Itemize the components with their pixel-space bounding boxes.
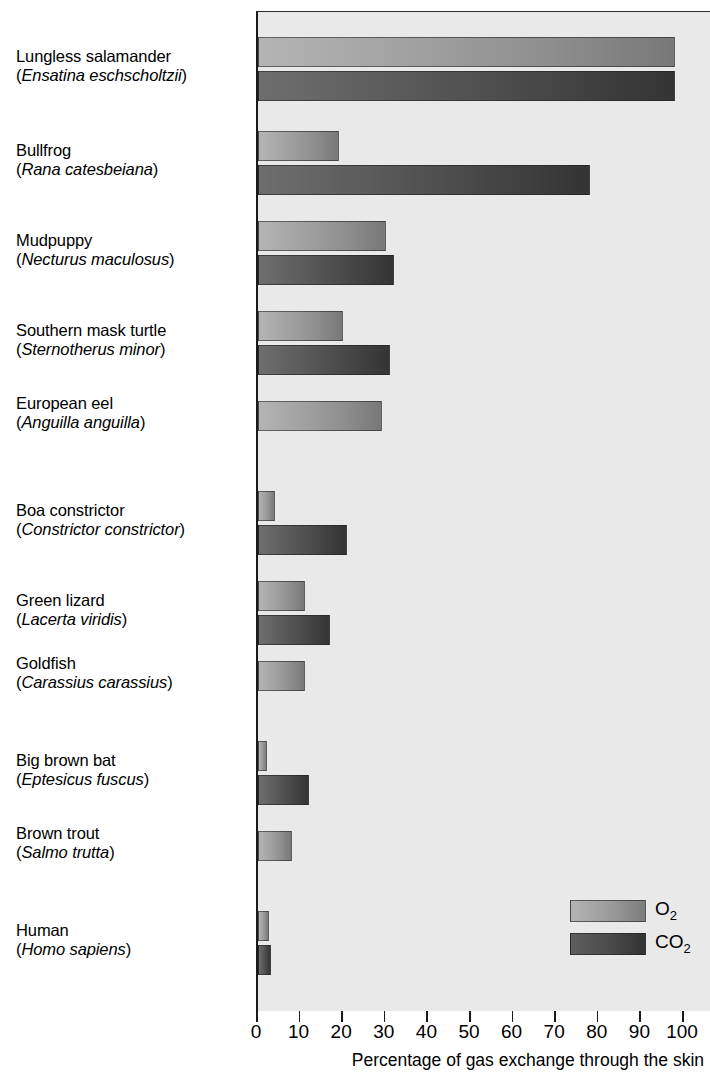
species-common-name-3: Southern mask turtle	[16, 321, 252, 340]
bar-o2-1	[258, 131, 339, 161]
x-tick-label-50: 50	[458, 1021, 479, 1043]
legend-label-co2-text: CO	[655, 931, 684, 952]
species-common-name-9: Brown trout	[16, 824, 252, 843]
legend-label-co2: CO2	[655, 931, 691, 956]
bar-co2-0	[258, 71, 675, 101]
legend-swatch-o2	[570, 900, 646, 922]
species-common-name-8: Big brown bat	[16, 751, 252, 770]
species-common-name-7: Goldfish	[16, 654, 252, 673]
chart-legend: O2 CO2	[570, 896, 702, 962]
x-tick-label-30: 30	[373, 1021, 394, 1043]
bar-o2-8	[258, 741, 267, 771]
legend-label-o2-subscript: 2	[670, 908, 677, 923]
species-label-6: Green lizard(Lacerta viridis)	[16, 591, 252, 630]
bar-co2-2	[258, 255, 394, 285]
bar-o2-10	[258, 911, 269, 941]
species-latin-name-9: (Salmo trutta)	[16, 843, 252, 862]
species-label-3: Southern mask turtle(Sternotherus minor)	[16, 321, 252, 360]
species-label-0: Lungless salamander(Ensatina eschscholtz…	[16, 47, 252, 86]
legend-swatch-co2	[570, 933, 646, 955]
x-tick-label-20: 20	[331, 1021, 352, 1043]
x-tick-label-60: 60	[501, 1021, 522, 1043]
species-common-name-6: Green lizard	[16, 591, 252, 610]
bar-co2-6	[258, 615, 330, 645]
bar-o2-3	[258, 311, 343, 341]
species-common-name-10: Human	[16, 921, 252, 940]
bar-o2-4	[258, 401, 382, 431]
legend-item-co2: CO2	[570, 929, 702, 958]
x-axis-tick-labels: 0102030405060708090100	[0, 1021, 710, 1047]
species-label-5: Boa constrictor(Constrictor constrictor)	[16, 501, 252, 540]
bar-o2-0	[258, 37, 675, 67]
bar-o2-5	[258, 491, 275, 521]
species-label-7: Goldfish(Carassius carassius)	[16, 654, 252, 693]
bar-co2-8	[258, 775, 309, 805]
bar-co2-3	[258, 345, 390, 375]
species-label-8: Big brown bat(Eptesicus fuscus)	[16, 751, 252, 790]
species-label-1: Bullfrog(Rana catesbeiana)	[16, 141, 252, 180]
species-common-name-5: Boa constrictor	[16, 501, 252, 520]
species-latin-name-0: (Ensatina eschscholtzii)	[16, 66, 252, 85]
bar-o2-7	[258, 661, 305, 691]
bar-o2-6	[258, 581, 305, 611]
species-common-name-2: Mudpuppy	[16, 231, 252, 250]
species-label-4: European eel(Anguilla anguilla)	[16, 394, 252, 433]
species-latin-name-3: (Sternotherus minor)	[16, 340, 252, 359]
species-label-column: Lungless salamander(Ensatina eschscholtz…	[0, 0, 256, 1012]
species-latin-name-5: (Constrictor constrictor)	[16, 520, 252, 539]
species-latin-name-4: (Anguilla anguilla)	[16, 413, 252, 432]
species-latin-name-6: (Lacerta viridis)	[16, 610, 252, 629]
bar-o2-2	[258, 221, 386, 251]
species-latin-name-2: (Necturus maculosus)	[16, 250, 252, 269]
species-label-2: Mudpuppy(Necturus maculosus)	[16, 231, 252, 270]
species-common-name-4: European eel	[16, 394, 252, 413]
species-common-name-0: Lungless salamander	[16, 47, 252, 66]
bar-o2-9	[258, 831, 292, 861]
legend-label-o2-text: O	[655, 898, 670, 919]
bar-co2-1	[258, 165, 590, 195]
species-latin-name-8: (Eptesicus fuscus)	[16, 770, 252, 789]
x-tick-label-40: 40	[416, 1021, 437, 1043]
chart-plot-area	[256, 11, 710, 1011]
species-latin-name-7: (Carassius carassius)	[16, 673, 252, 692]
x-tick-label-0: 0	[251, 1021, 262, 1043]
x-axis-title: Percentage of gas exchange through the s…	[0, 1050, 710, 1071]
legend-item-o2: O2	[570, 896, 702, 925]
x-tick-label-90: 90	[629, 1021, 650, 1043]
species-label-10: Human(Homo sapiens)	[16, 921, 252, 960]
species-common-name-1: Bullfrog	[16, 141, 252, 160]
x-tick-label-100: 100	[666, 1021, 698, 1043]
species-latin-name-10: (Homo sapiens)	[16, 940, 252, 959]
x-tick-label-10: 10	[288, 1021, 309, 1043]
x-tick-label-80: 80	[586, 1021, 607, 1043]
legend-label-o2: O2	[655, 898, 677, 923]
x-tick-label-70: 70	[544, 1021, 565, 1043]
species-label-9: Brown trout(Salmo trutta)	[16, 824, 252, 863]
legend-label-co2-subscript: 2	[684, 941, 691, 956]
bar-co2-5	[258, 525, 347, 555]
bar-co2-10	[258, 945, 271, 975]
species-latin-name-1: (Rana catesbeiana)	[16, 160, 252, 179]
